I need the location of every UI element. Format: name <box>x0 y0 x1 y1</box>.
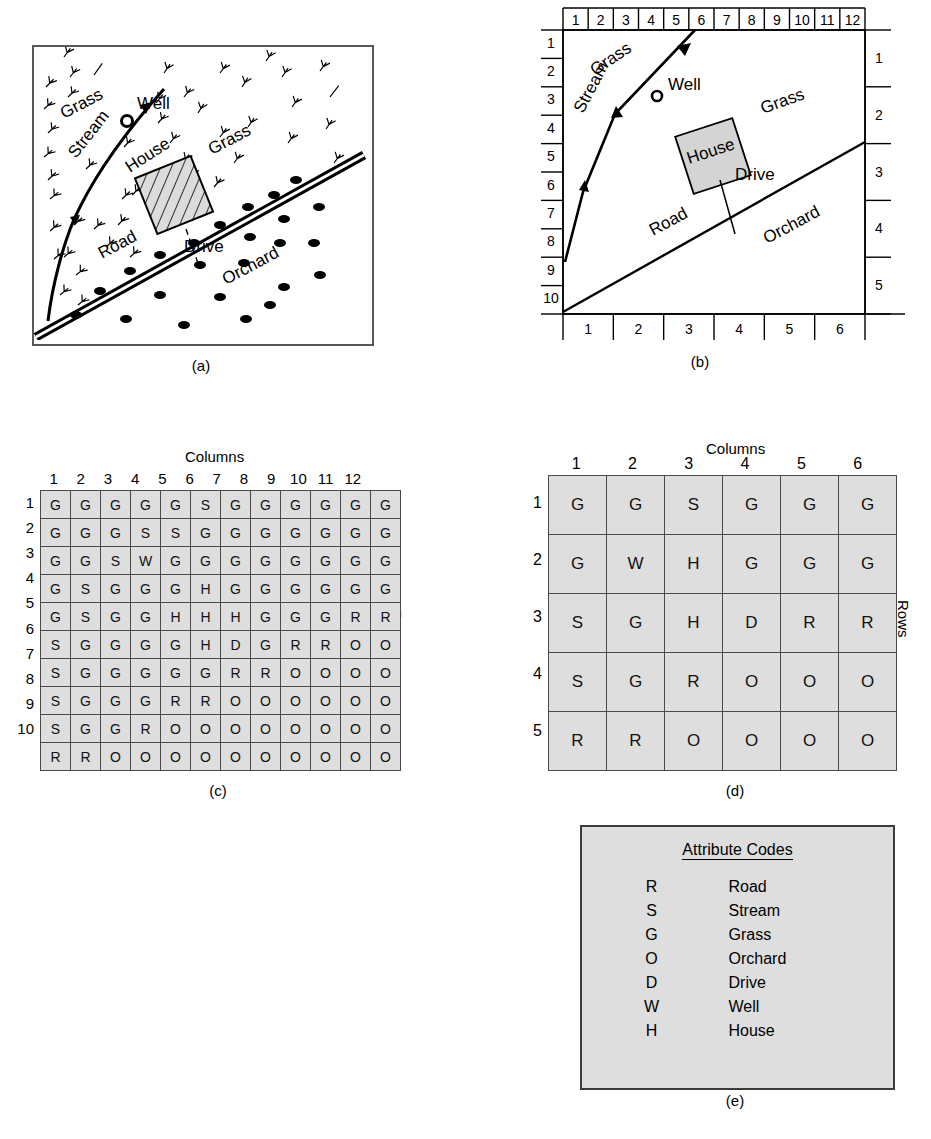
grid-cell[interactable]: G <box>161 547 191 575</box>
grid-cell[interactable]: G <box>311 547 341 575</box>
grid-cell[interactable]: G <box>131 659 161 687</box>
grid-cell[interactable]: G <box>839 535 897 594</box>
grid-cell[interactable]: O <box>371 687 401 715</box>
grid-cell[interactable]: G <box>251 631 281 659</box>
grid-cell[interactable]: G <box>161 631 191 659</box>
grid-cell[interactable]: R <box>781 594 839 653</box>
grid-cell[interactable]: G <box>607 594 665 653</box>
grid-cell[interactable]: R <box>607 712 665 771</box>
grid-cell[interactable]: G <box>311 519 341 547</box>
grid-cell[interactable]: O <box>839 712 897 771</box>
grid-cell[interactable]: G <box>101 603 131 631</box>
grid-cell[interactable]: R <box>41 743 71 771</box>
grid-cell[interactable]: S <box>41 631 71 659</box>
grid-cell[interactable]: G <box>723 476 781 535</box>
grid-cell[interactable]: O <box>281 743 311 771</box>
grid-cell[interactable]: G <box>41 519 71 547</box>
grid-cell[interactable]: G <box>161 491 191 519</box>
grid-cell[interactable]: G <box>281 547 311 575</box>
grid-cell[interactable]: O <box>781 653 839 712</box>
grid-cell[interactable]: G <box>71 687 101 715</box>
grid-cell[interactable]: O <box>371 715 401 743</box>
grid-cell[interactable]: S <box>665 476 723 535</box>
grid-cell[interactable]: O <box>341 687 371 715</box>
grid-cell[interactable]: G <box>71 659 101 687</box>
grid-cell[interactable]: G <box>251 603 281 631</box>
grid-cell[interactable]: G <box>839 476 897 535</box>
grid-cell[interactable]: H <box>161 603 191 631</box>
grid-cell[interactable]: G <box>549 476 607 535</box>
grid-cell[interactable]: G <box>607 476 665 535</box>
grid-cell[interactable]: G <box>131 491 161 519</box>
grid-cell[interactable]: O <box>839 653 897 712</box>
grid-cell[interactable]: S <box>549 653 607 712</box>
grid-cell[interactable]: H <box>191 575 221 603</box>
grid-cell[interactable]: O <box>191 743 221 771</box>
grid-cell[interactable]: G <box>281 575 311 603</box>
grid-cell[interactable]: S <box>191 491 221 519</box>
grid-cell[interactable]: S <box>71 603 101 631</box>
grid-cell[interactable]: O <box>371 659 401 687</box>
grid-cell[interactable]: O <box>371 631 401 659</box>
grid-cell[interactable]: S <box>131 519 161 547</box>
grid-cell[interactable]: S <box>41 659 71 687</box>
grid-cell[interactable]: G <box>191 659 221 687</box>
grid-cell[interactable]: G <box>41 547 71 575</box>
grid-cell[interactable]: G <box>41 575 71 603</box>
grid-cell[interactable]: O <box>131 743 161 771</box>
grid-cell[interactable]: D <box>221 631 251 659</box>
grid-cell[interactable]: G <box>101 687 131 715</box>
grid-cell[interactable]: G <box>371 575 401 603</box>
grid-cell[interactable]: G <box>131 687 161 715</box>
grid-cell[interactable]: H <box>665 594 723 653</box>
grid-cell[interactable]: O <box>311 687 341 715</box>
grid-cell[interactable]: O <box>665 712 723 771</box>
grid-cell[interactable]: R <box>665 653 723 712</box>
grid-cell[interactable]: G <box>71 715 101 743</box>
grid-cell[interactable]: S <box>549 594 607 653</box>
grid-cell[interactable]: G <box>781 476 839 535</box>
grid-cell[interactable]: S <box>161 519 191 547</box>
grid-cell[interactable]: G <box>71 547 101 575</box>
grid-cell[interactable]: O <box>281 687 311 715</box>
grid-cell[interactable]: S <box>41 715 71 743</box>
grid-cell[interactable]: O <box>101 743 131 771</box>
grid-cell[interactable]: O <box>221 687 251 715</box>
grid-cell[interactable]: R <box>251 659 281 687</box>
grid-cell[interactable]: G <box>161 575 191 603</box>
grid-cell[interactable]: G <box>131 603 161 631</box>
grid-cell[interactable]: O <box>781 712 839 771</box>
grid-cell[interactable]: O <box>251 715 281 743</box>
grid-cell[interactable]: G <box>101 575 131 603</box>
grid-cell[interactable]: O <box>311 715 341 743</box>
grid-cell[interactable]: G <box>281 603 311 631</box>
grid-cell[interactable]: S <box>71 575 101 603</box>
grid-cell[interactable]: G <box>221 491 251 519</box>
grid-cell[interactable]: G <box>251 547 281 575</box>
grid-cell[interactable]: G <box>723 535 781 594</box>
grid-cell[interactable]: O <box>371 743 401 771</box>
grid-cell[interactable]: O <box>191 715 221 743</box>
grid-cell[interactable]: G <box>221 547 251 575</box>
grid-cell[interactable]: G <box>549 535 607 594</box>
grid-cell[interactable]: O <box>341 743 371 771</box>
grid-cell[interactable]: S <box>101 547 131 575</box>
grid-cell[interactable]: W <box>131 547 161 575</box>
grid-cell[interactable]: G <box>371 547 401 575</box>
grid-cell[interactable]: O <box>341 631 371 659</box>
grid-cell[interactable]: R <box>131 715 161 743</box>
grid-cell[interactable]: G <box>251 575 281 603</box>
grid-cell[interactable]: R <box>191 687 221 715</box>
grid-cell[interactable]: H <box>191 603 221 631</box>
grid-cell[interactable]: D <box>723 594 781 653</box>
grid-cell[interactable]: G <box>101 491 131 519</box>
grid-cell[interactable]: G <box>101 631 131 659</box>
grid-cell[interactable]: S <box>41 687 71 715</box>
grid-cell[interactable]: O <box>341 659 371 687</box>
grid-cell[interactable]: G <box>41 603 71 631</box>
grid-cell[interactable]: G <box>221 575 251 603</box>
grid-cell[interactable]: G <box>341 547 371 575</box>
grid-cell[interactable]: G <box>101 659 131 687</box>
grid-cell[interactable]: G <box>341 491 371 519</box>
grid-cell[interactable]: G <box>161 659 191 687</box>
